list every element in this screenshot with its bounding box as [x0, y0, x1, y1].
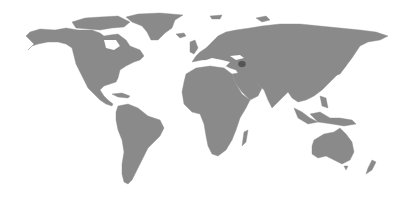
indonesia: [310, 112, 356, 126]
world-map: [0, 0, 415, 197]
north-america: [26, 28, 144, 106]
south-america: [116, 104, 164, 184]
new-zealand: [366, 160, 376, 174]
greenland: [126, 13, 183, 40]
novaya-zemlya: [256, 16, 270, 22]
landmasses: [26, 13, 388, 184]
iceland: [176, 33, 186, 38]
uk: [190, 40, 198, 54]
svalbard: [210, 15, 222, 19]
australia: [312, 128, 354, 164]
arctic-islands: [72, 16, 130, 30]
philippines: [320, 96, 328, 108]
madagascar: [242, 130, 248, 146]
highlighted-country-armenia[interactable]: [238, 61, 245, 67]
tasmania: [344, 166, 348, 170]
caribbean: [112, 93, 130, 98]
